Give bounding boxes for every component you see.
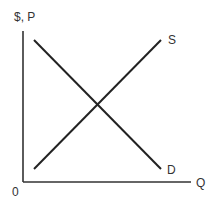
- origin-label: 0: [12, 186, 19, 198]
- y-axis-label: $, P: [14, 11, 35, 23]
- demand-curve-label: D: [167, 164, 176, 176]
- supply-demand-chart: [0, 0, 211, 201]
- supply-curve-label: S: [168, 34, 176, 46]
- x-axis-label: Q: [196, 177, 205, 189]
